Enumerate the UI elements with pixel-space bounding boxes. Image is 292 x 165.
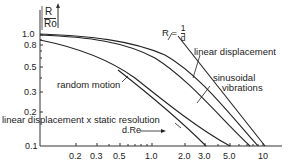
y-axis-label-denominator: Ro (44, 19, 57, 29)
x-tick-label: 3.0 (198, 152, 211, 161)
y-tick-label: 1.0 (22, 30, 35, 39)
annotation-static-resolution: linear displacement x static resolution (2, 115, 160, 125)
x-tick-label: 0.5 (113, 152, 126, 161)
annotation-linear-displacement: linear displacement (194, 47, 276, 57)
leader-linear (193, 55, 200, 78)
arrow-right-icon (161, 129, 166, 133)
x-tick-label: 2.0 (178, 152, 191, 161)
x-tick-label: 1.0 (145, 152, 158, 161)
x-axis-label-text: d.Re (122, 125, 141, 135)
annotation-r-eq: R = 1 d (162, 24, 185, 42)
annotation-sinusoidal-2: vibrations (222, 83, 263, 93)
x-tick-label: 5.0 (223, 152, 236, 161)
x-tick-label: 10 (258, 152, 268, 161)
r-eq-fraction: 1 d (181, 24, 186, 42)
arrow-up-icon (56, 3, 60, 8)
y-tick-label: 0.8 (24, 41, 37, 50)
y-tick-label: 0.3 (24, 88, 37, 97)
leader-random (122, 76, 128, 82)
x-tick-label: 0.2 (69, 152, 82, 161)
y-axis-label-numerator: R (45, 7, 52, 17)
y-tick-label: 0.1 (25, 142, 38, 151)
x-tick-label: 0.3 (90, 152, 103, 161)
r-eq-denominator: d (181, 34, 186, 43)
r-eq-text: R = (162, 27, 177, 38)
leader-static (175, 123, 181, 128)
y-tick-label: 0.5 (24, 63, 37, 72)
annotation-random-motion: random motion (57, 80, 120, 90)
x-axis-label: d.Re (122, 126, 141, 135)
